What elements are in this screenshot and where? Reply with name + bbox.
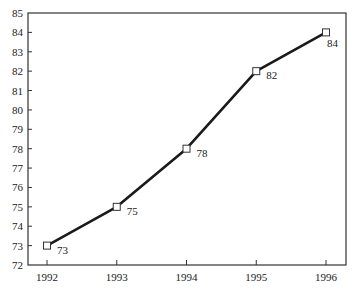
y-tick-label: 74 (12, 220, 24, 232)
plot-border (28, 13, 346, 265)
x-tick-label: 1996 (315, 271, 338, 283)
y-tick-label: 76 (12, 181, 24, 193)
data-point-label: 73 (57, 244, 69, 256)
x-tick-label: 1995 (245, 271, 268, 283)
y-tick-label: 75 (12, 201, 24, 213)
y-axis: 7273747576777879808182838485 (12, 7, 32, 271)
x-axis: 19921993199419951996 (36, 260, 338, 283)
y-tick-label: 72 (12, 259, 23, 271)
y-tick-label: 84 (12, 26, 24, 38)
data-labels: 7375788284 (57, 37, 339, 255)
data-markers (44, 29, 330, 249)
plot-frame (28, 13, 346, 265)
series-polyline (47, 32, 326, 245)
square-marker-icon (44, 242, 51, 249)
data-point-label: 84 (327, 37, 339, 49)
y-tick-label: 80 (12, 104, 24, 116)
line-chart: 7273747576777879808182838485 19921993199… (0, 0, 356, 291)
square-marker-icon (323, 29, 330, 36)
y-tick-label: 85 (12, 7, 24, 19)
y-tick-label: 73 (12, 240, 24, 252)
y-tick-label: 82 (12, 65, 23, 77)
data-series-line (47, 32, 326, 245)
y-tick-label: 83 (12, 46, 24, 58)
x-tick-label: 1994 (176, 271, 199, 283)
y-tick-label: 81 (12, 85, 23, 97)
square-marker-icon (253, 68, 260, 75)
square-marker-icon (113, 203, 120, 210)
square-marker-icon (183, 145, 190, 152)
y-tick-label: 77 (12, 162, 24, 174)
data-point-label: 82 (266, 69, 277, 81)
y-tick-label: 79 (12, 123, 24, 135)
x-tick-label: 1993 (106, 271, 129, 283)
x-tick-label: 1992 (36, 271, 58, 283)
data-point-label: 75 (127, 205, 139, 217)
y-tick-label: 78 (12, 143, 24, 155)
data-point-label: 78 (197, 147, 209, 159)
